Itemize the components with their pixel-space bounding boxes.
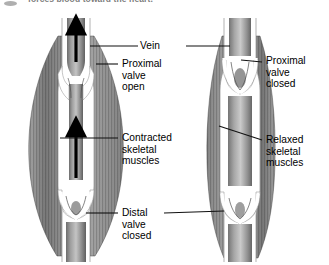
label-proximal-valve-open: Proximal valve open bbox=[122, 58, 162, 93]
label-distal-valve-closed: Distal valve closed bbox=[122, 207, 151, 242]
venous-valve-figure: forces blood toward the heart. bbox=[0, 0, 329, 265]
right-lumen-mid bbox=[228, 96, 252, 186]
right-lumen-lower bbox=[228, 224, 252, 262]
vein-lumen-lower bbox=[66, 222, 86, 262]
right-panel-illustration bbox=[207, 18, 275, 262]
right-vein bbox=[220, 18, 260, 262]
right-lumen-upper bbox=[229, 18, 251, 56]
label-proximal-valve-closed: Proximal valve closed bbox=[266, 55, 306, 90]
label-contracted-skeletal-muscles: Contracted skeletal muscles bbox=[122, 132, 172, 167]
label-relaxed-skeletal-muscles: Relaxed skeletal muscles bbox=[266, 134, 303, 169]
left-panel-illustration bbox=[29, 18, 124, 262]
label-vein: Vein bbox=[140, 40, 160, 52]
